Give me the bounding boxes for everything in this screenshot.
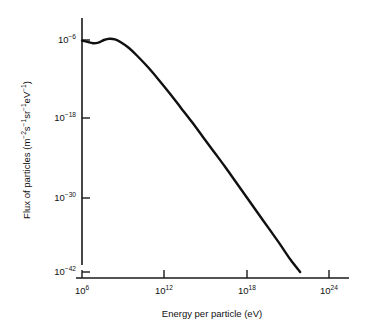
y-tick-label-0: 10−6 [58, 33, 76, 45]
flux-spectrum-curve [82, 39, 300, 272]
x-tick-label-3: 1024 [320, 284, 338, 296]
x-axis-title: Energy per particle (eV) [162, 308, 262, 319]
x-tick-marks [82, 270, 329, 278]
x-tick-label-0: 106 [75, 284, 90, 296]
x-tick-labels: 106 1012 1018 1024 [75, 284, 338, 296]
x-tick-label-2: 1018 [238, 284, 256, 296]
y-tick-labels: 10−6 10−18 10−30 10−42 [54, 33, 76, 277]
chart-figure: 10−6 10−18 10−30 10−42 106 1012 1018 102… [0, 0, 370, 332]
y-axis-title: Flux of particles (m−2s−1sr−1eV−1) [20, 81, 32, 219]
x-tick-label-1: 1012 [155, 284, 173, 296]
y-tick-label-1: 10−18 [54, 111, 76, 123]
y-tick-marks [82, 40, 90, 272]
y-tick-label-2: 10−30 [54, 191, 76, 203]
flux-spectrum-plot: 10−6 10−18 10−30 10−42 106 1012 1018 102… [0, 0, 370, 332]
y-tick-label-3: 10−42 [54, 265, 76, 277]
